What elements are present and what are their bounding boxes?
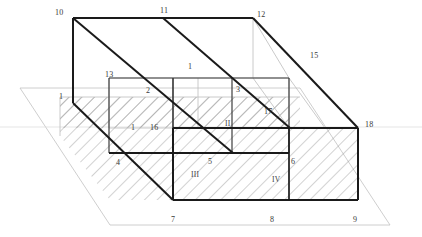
vertex-label-18: 18	[365, 121, 373, 129]
vertex-label-1-left: 1	[59, 93, 63, 101]
technical-diagram-figure: 10 11 12 15 13 1 2 3 17 18 16 4 5 6 7 8 …	[0, 0, 422, 237]
region-label-iii: III	[191, 171, 199, 179]
vertex-label-17: 17	[264, 108, 272, 116]
region-label-ii: II	[225, 120, 230, 128]
vertex-label-10: 10	[55, 9, 63, 17]
vertex-label-6: 6	[291, 158, 295, 166]
vertex-label-13: 13	[105, 71, 113, 79]
vertex-label-11: 11	[160, 7, 168, 15]
vertex-label-8: 8	[270, 216, 274, 224]
vertex-label-5: 5	[208, 158, 212, 166]
vertex-label-16: 16	[150, 124, 158, 132]
hatched-section	[40, 80, 400, 237]
vertex-label-3: 3	[236, 86, 240, 94]
vertex-label-7: 7	[171, 216, 175, 224]
vertex-label-2: 2	[146, 87, 150, 95]
diagram-svg	[0, 0, 422, 237]
vertex-label-9: 9	[353, 216, 357, 224]
vertex-label-12: 12	[257, 11, 265, 19]
vertex-label-4: 4	[116, 159, 120, 167]
region-label-iv: IV	[272, 176, 280, 184]
vertex-label-1-inner: 1	[131, 124, 135, 132]
vertex-label-15: 15	[310, 52, 318, 60]
vertex-label-1-upper: 1	[188, 63, 192, 71]
